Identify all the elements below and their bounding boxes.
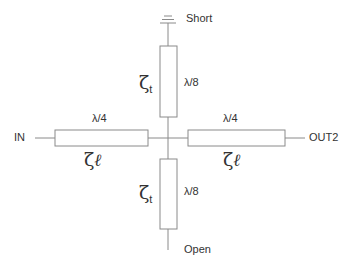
left-line-length: λ/4 [92,112,107,124]
short-label: Short [186,12,212,24]
bottom-stub [160,159,177,229]
right-line [188,130,285,146]
right-line-impedance: ζℓ [223,150,240,169]
left-line-impedance: ζℓ [84,150,101,169]
top-stub-length: λ/8 [184,76,199,88]
open-label: Open [184,243,211,255]
circuit-diagram [0,0,355,267]
ground-icon [160,16,176,23]
bottom-stub-impedance: ζt [139,183,152,205]
top-stub [160,46,177,117]
top-stub-impedance: ζt [139,73,152,95]
output-port-label: OUT2 [309,131,338,143]
right-line-length: λ/4 [223,112,238,124]
left-line [55,130,148,146]
bottom-stub-length: λ/8 [184,185,199,197]
input-port-label: IN [14,131,25,143]
